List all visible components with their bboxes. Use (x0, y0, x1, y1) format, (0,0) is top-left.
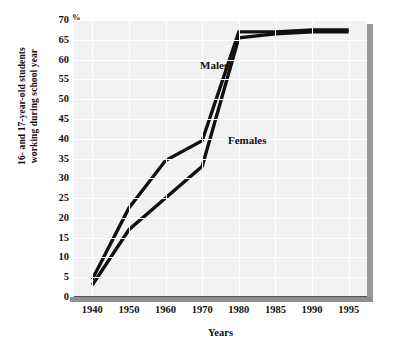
gridline-horizontal (74, 79, 367, 80)
y-axis-tick-label: 50 (41, 94, 69, 104)
gridline-vertical (129, 20, 130, 297)
y-axis-tick-label: 65 (41, 35, 69, 45)
gridline-horizontal (74, 178, 367, 179)
gridline-horizontal (74, 159, 367, 160)
y-axis-tick-label: 70 (41, 15, 69, 25)
gridline-vertical (239, 20, 240, 297)
gridline-vertical (349, 20, 350, 297)
gridline-vertical (92, 20, 93, 297)
x-axis-title: Years (74, 327, 367, 338)
x-axis-line (74, 296, 367, 297)
y-axis-tick-label: 10 (41, 252, 69, 262)
y-axis-tick-label: 55 (41, 74, 69, 84)
gridline-vertical (166, 20, 167, 297)
gridline-horizontal (74, 198, 367, 199)
y-axis-tick-label: 25 (41, 193, 69, 203)
x-axis-tick-label: 1995 (326, 304, 372, 315)
y-axis-title-line-2: working during school year (28, 6, 40, 206)
gridline-horizontal (74, 40, 367, 41)
gridline-horizontal (74, 277, 367, 278)
gridline-vertical (312, 20, 313, 297)
line-chart: 16- and 17-year-old students working dur… (0, 0, 396, 350)
series-label-females: Females (228, 134, 266, 146)
y-axis-tick-label: 35 (41, 154, 69, 164)
y-axis-tick-labels: 0510152025303540455055606570 (41, 0, 69, 350)
y-axis-tick-label: 5 (41, 272, 69, 282)
y-axis-tick-label: 0 (41, 292, 69, 302)
plot-right-shadow (367, 24, 373, 301)
y-axis-tick-label: 30 (41, 173, 69, 183)
gridline-horizontal (74, 238, 367, 239)
y-axis-tick-label: 60 (41, 55, 69, 65)
y-axis-tick-label: 45 (41, 114, 69, 124)
plot-bottom-shadow (70, 297, 373, 302)
x-axis-tick-labels: 19401950196019701980198519901995 (0, 304, 396, 320)
y-axis-tick-label: 15 (41, 233, 69, 243)
gridline-horizontal (74, 99, 367, 100)
gridline-horizontal (74, 119, 367, 120)
series-label-males: Males (200, 59, 228, 71)
gridline-vertical (275, 20, 276, 297)
y-axis-title-line-1: 16- and 17-year-old students (16, 6, 28, 206)
gridline-horizontal (74, 218, 367, 219)
gridline-horizontal (74, 257, 367, 258)
y-axis-tick-label: 40 (41, 134, 69, 144)
y-axis-tick-label: 20 (41, 213, 69, 223)
gridline-horizontal (74, 20, 367, 21)
gridline-horizontal (74, 139, 367, 140)
